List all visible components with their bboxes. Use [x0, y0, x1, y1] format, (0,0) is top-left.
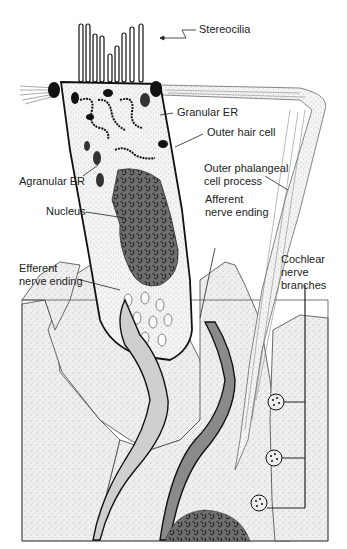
- label-efferent-2: nerve ending: [19, 275, 83, 288]
- label-cochlear-1: Cochlear: [281, 253, 325, 266]
- label-afferent-2: nerve ending: [205, 206, 269, 219]
- label-outer-phalangeal-1: Outer phalangeal: [204, 162, 288, 175]
- label-stereocilia: Stereocilia: [199, 23, 250, 36]
- label-agranular-er: Agranular ER: [19, 175, 85, 188]
- label-granular-er: Granular ER: [177, 106, 238, 119]
- label-cochlear-2: nerve: [281, 266, 309, 279]
- label-outer-hair-cell: Outer hair cell: [207, 126, 275, 139]
- label-outer-phalangeal-2: cell process: [204, 175, 262, 188]
- label-afferent-1: Afferent: [205, 193, 243, 206]
- label-nucleus: Nucleus: [46, 205, 86, 218]
- stereocilia: [79, 24, 143, 82]
- label-cochlear-3: branches: [281, 279, 326, 292]
- label-efferent-1: Efferent: [19, 262, 57, 275]
